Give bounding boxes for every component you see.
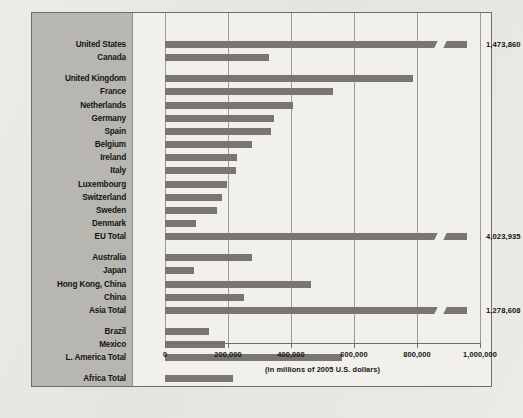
x-axis-tick-label: 1,000,000 bbox=[463, 350, 497, 359]
x-axis-line bbox=[165, 343, 480, 344]
x-axis-tick bbox=[417, 343, 418, 348]
bar bbox=[165, 54, 269, 61]
category-label: Ireland bbox=[100, 153, 126, 162]
bar bbox=[165, 375, 233, 382]
category-label: United Kingdom bbox=[65, 74, 126, 83]
bar bbox=[165, 207, 217, 214]
bar bbox=[165, 167, 236, 174]
bar-value-label: 4,023,935 bbox=[486, 232, 521, 241]
category-label: Asia Total bbox=[89, 306, 126, 315]
category-label: Italy bbox=[110, 166, 126, 175]
bar bbox=[165, 102, 293, 109]
category-label: Sweden bbox=[96, 206, 126, 215]
bar bbox=[165, 281, 311, 288]
x-axis-caption: (in millions of 2005 U.S. dollars) bbox=[265, 365, 380, 374]
category-label: Japan bbox=[103, 266, 126, 275]
bar bbox=[165, 307, 467, 314]
bar bbox=[165, 181, 227, 188]
bar bbox=[165, 220, 196, 227]
gridline bbox=[291, 13, 292, 343]
category-label: Australia bbox=[92, 253, 126, 262]
x-axis-tick-label: 400,000 bbox=[277, 350, 304, 359]
x-axis-tick-label: 800,000 bbox=[403, 350, 430, 359]
category-label: Canada bbox=[97, 53, 126, 62]
bar bbox=[165, 233, 467, 240]
category-label: L. America Total bbox=[66, 353, 126, 362]
bar-value-label: 1,473,860 bbox=[486, 40, 521, 49]
x-axis-tick bbox=[228, 343, 229, 348]
bar bbox=[165, 294, 244, 301]
bar-chart-figure: United StatesCanadaUnited KingdomFranceN… bbox=[31, 12, 492, 387]
bar bbox=[165, 354, 342, 361]
x-axis-tick-label: 0 bbox=[163, 350, 167, 359]
gridline bbox=[417, 13, 418, 343]
x-axis-tick bbox=[165, 343, 166, 348]
category-label: Africa Total bbox=[83, 374, 126, 383]
category-label: Switzerland bbox=[82, 193, 126, 202]
x-axis-tick bbox=[291, 343, 292, 348]
gridline bbox=[354, 13, 355, 343]
bar bbox=[165, 141, 252, 148]
category-label: Spain bbox=[104, 127, 126, 136]
bar bbox=[165, 267, 194, 274]
bar bbox=[165, 41, 467, 48]
bar bbox=[165, 75, 413, 82]
category-label: Luxembourg bbox=[78, 180, 126, 189]
category-label: United States bbox=[76, 40, 126, 49]
x-axis-tick bbox=[354, 343, 355, 348]
x-axis-tick-label: 200,000 bbox=[214, 350, 241, 359]
gridline bbox=[480, 13, 481, 343]
category-label-pane: United StatesCanadaUnited KingdomFranceN… bbox=[32, 13, 133, 386]
bar bbox=[165, 254, 252, 261]
category-label: Brazil bbox=[105, 327, 126, 336]
category-label: Mexico bbox=[99, 340, 126, 349]
category-label: Hong Kong, China bbox=[57, 280, 126, 289]
category-label: China bbox=[104, 293, 126, 302]
category-label: Belgium bbox=[95, 140, 126, 149]
bar bbox=[165, 88, 333, 95]
bar bbox=[165, 328, 209, 335]
x-axis-tick bbox=[480, 343, 481, 348]
category-label: France bbox=[100, 87, 126, 96]
x-axis-tick-label: 600,000 bbox=[340, 350, 367, 359]
category-label: Germany bbox=[92, 114, 126, 123]
bar bbox=[165, 154, 237, 161]
bar bbox=[165, 128, 271, 135]
bar-value-label: 1,278,608 bbox=[486, 306, 521, 315]
plot-area: 0200,000400,000600,000800,0001,000,000 (… bbox=[133, 13, 491, 386]
bar bbox=[165, 194, 222, 201]
category-label: EU Total bbox=[95, 232, 126, 241]
bar bbox=[165, 115, 274, 122]
category-label: Denmark bbox=[92, 219, 126, 228]
category-label: Netherlands bbox=[80, 101, 126, 110]
